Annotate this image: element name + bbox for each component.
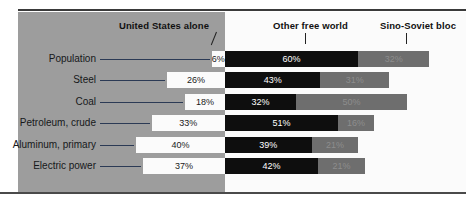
bar-value-other-free-world: 60%: [225, 51, 358, 67]
bar-value-sino-soviet-bloc: 21%: [318, 158, 365, 174]
bar-value-united-states: 33%: [152, 115, 225, 131]
legend-label-other-free-world: Other free world: [273, 20, 348, 31]
chart-row: Electric power37%42%21%: [0, 158, 466, 174]
bar-value-sino-soviet-bloc: 21%: [312, 137, 359, 153]
bar-value-other-free-world: 39%: [225, 137, 312, 153]
bar-value-other-free-world: 43%: [225, 72, 320, 88]
legend-label-sino-soviet-bloc: Sino-Soviet bloc: [380, 20, 456, 31]
row-leader-line: [100, 80, 165, 81]
chart-figure: United States alone Other free world Sin…: [0, 0, 466, 201]
row-leader-line: [100, 123, 150, 124]
row-label-steel: Steel: [73, 72, 96, 88]
bar-value-united-states: 18%: [185, 94, 225, 110]
chart-row: Aluminum, primary40%39%21%: [0, 137, 466, 153]
bottom-rule: [0, 192, 466, 194]
bar-value-united-states: 6%: [212, 51, 225, 67]
bar-value-sino-soviet-bloc: 16%: [338, 115, 374, 131]
bar-value-other-free-world: 32%: [225, 94, 296, 110]
row-leader-line: [100, 102, 183, 103]
bar-value-united-states: 37%: [143, 158, 225, 174]
row-leader-line: [100, 59, 210, 60]
row-leader-line: [100, 145, 134, 146]
row-label-petroleum-crude: Petroleum, crude: [20, 115, 96, 131]
row-label-aluminum-primary: Aluminum, primary: [13, 137, 96, 153]
bar-value-united-states: 26%: [167, 72, 225, 88]
bar-value-other-free-world: 42%: [225, 158, 318, 174]
chart-row: Petroleum, crude33%51%16%: [0, 115, 466, 131]
row-leader-line: [100, 166, 141, 167]
row-label-coal: Coal: [75, 94, 96, 110]
chart-row: Steel26%43%31%: [0, 72, 466, 88]
chart-row: Coal18%32%50%: [0, 94, 466, 110]
legend-label-united-states: United States alone: [119, 20, 209, 31]
bar-value-sino-soviet-bloc: 32%: [358, 51, 429, 67]
legend-leader-sino-soviet-bloc: [406, 33, 407, 44]
row-label-population: Population: [49, 51, 96, 67]
row-label-electric-power: Electric power: [33, 158, 96, 174]
top-rule: [18, 9, 466, 11]
bar-value-united-states: 40%: [136, 137, 225, 153]
legend-leader-other-free-world: [305, 33, 306, 44]
bar-value-other-free-world: 51%: [225, 115, 338, 131]
bar-value-sino-soviet-bloc: 31%: [320, 72, 389, 88]
chart-row: Population6%60%32%: [0, 51, 466, 67]
bar-value-sino-soviet-bloc: 50%: [296, 94, 407, 110]
